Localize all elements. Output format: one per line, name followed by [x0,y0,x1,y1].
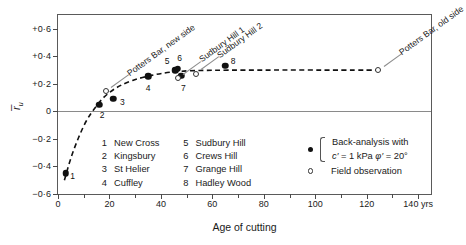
legend-entry-name: Kingsbury [114,151,155,161]
legend-entry-index: 6 [181,151,188,161]
data-point-index-label: 8 [231,56,236,66]
y-tick-label: −0·4 [32,161,51,171]
data-point-back-analysis [96,101,103,108]
legend-entry-name: Crews Hill [195,151,237,161]
marker-key-legend: Back-analysis with c′ = 1 kPa φ′ = 20° F… [306,137,408,176]
data-point-back-analysis [145,73,152,80]
data-point-field-observation [375,67,381,73]
formula-mid: = 1 kPa [338,151,375,161]
legend-entry-name: New Cross [114,138,159,148]
y-tick-label: 0 [46,106,51,116]
x-tick-label: 0 [55,199,60,209]
data-point-index-label: 1 [70,171,75,181]
x-tick [341,194,342,198]
legend-entry-index: 1 [100,138,107,148]
data-point-index-label: 7 [181,83,186,93]
x-axis-title: Age of cutting [57,221,432,233]
y-tick-label: +0·2 [32,79,51,89]
x-tick [290,194,291,198]
y-tick [53,56,58,57]
legend-entry: 6Crews Hill [181,151,251,161]
y-tick [53,29,58,30]
y-axis-title-text: r̅u [10,102,22,110]
legend-entry: 8Hadley Wood [181,178,251,188]
legend-entry-name: St Helier [114,164,150,174]
legend-entry-index: 3 [100,164,107,174]
x-tick [238,194,239,198]
data-point-field-observation [193,71,199,77]
key-field-observation-label: Field observation [331,166,402,176]
data-point-field-observation [175,75,181,81]
legend-entry-name: Sudbury Hill [195,138,245,148]
data-point-index-label: 5 [165,56,170,66]
data-point-back-analysis [62,170,69,177]
data-point-index-label: 3 [120,97,125,107]
legend-entry: 1New Cross [100,138,159,148]
formula-end: = 20° [383,151,408,161]
key-back-analysis-formula: c′ = 1 kPa φ′ = 20° [332,151,408,163]
x-tick-label: 20 [104,199,114,209]
y-tick-label: +0·4 [32,51,51,61]
brace-icon [320,137,325,162]
key-back-analysis-label: Back-analysis with [332,137,408,149]
legend-column: 1New Cross2Kingsbury3St Helier4Cuffley [100,138,159,188]
y-axis-title: r̅u [10,97,24,115]
data-point-index-label: 4 [146,83,151,93]
filled-circle-icon [306,147,315,153]
legend-entry-name: Hadley Wood [195,178,251,188]
legend-entry-index: 2 [100,151,107,161]
y-tick [53,111,58,112]
data-point-back-analysis [110,96,117,103]
key-row-back-analysis: Back-analysis with c′ = 1 kPa φ′ = 20° [306,137,408,162]
data-point-back-analysis [174,65,181,72]
y-tick-label: −0·6 [32,189,51,199]
x-tick [392,194,393,198]
x-tick-label: 120 [359,199,374,209]
legend-entry: 5Sudbury Hill [181,138,251,148]
legend-entry-index: 7 [181,164,188,174]
site-index-legend: 1New Cross2Kingsbury3St Helier4Cuffley5S… [100,138,251,188]
legend-entry: 4Cuffley [100,178,159,188]
legend-column: 5Sudbury Hill6Crews Hill7Grange Hill8Had… [181,138,251,188]
legend-entry-index: 8 [181,178,188,188]
data-point-index-label: 6 [177,53,182,63]
data-point-field-observation [103,88,109,94]
y-tick [53,84,58,85]
legend-entry-index: 5 [181,138,188,148]
data-point-index-label: 2 [100,110,105,120]
x-tick-label: 140 yrs [403,199,433,209]
x-tick [135,194,136,198]
data-point-back-analysis [222,63,229,70]
x-tick-label: 40 [156,199,166,209]
legend-entry: 2Kingsbury [100,151,159,161]
x-tick-label: 60 [207,199,217,209]
legend-entry: 7Grange Hill [181,164,251,174]
legend-entry: 3St Helier [100,164,159,174]
legend-entry-name: Cuffley [114,178,143,188]
x-tick [84,194,85,198]
x-tick-label: 100 [308,199,323,209]
y-tick [53,166,58,167]
y-tick-label: +0·6 [32,24,51,34]
y-tick-label: −0·2 [32,134,51,144]
legend-entry-name: Grange Hill [195,164,242,174]
y-tick [53,139,58,140]
x-tick-label: 80 [259,199,269,209]
key-row-field-observation: Field observation [306,166,408,176]
phi-prime-symbol: φ′ [375,151,383,161]
legend-entry-index: 4 [100,178,107,188]
open-circle-icon [306,168,315,174]
x-tick [187,194,188,198]
